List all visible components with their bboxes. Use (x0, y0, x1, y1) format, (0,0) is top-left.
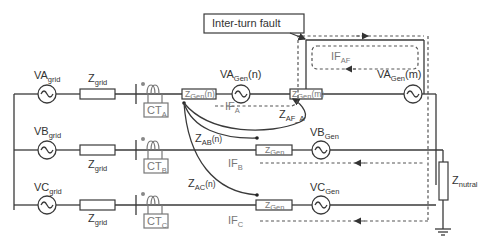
blurred-caption-line (12, 238, 474, 248)
gen-source-a-m (404, 85, 422, 103)
label-z-neutral: Znutral (452, 174, 478, 189)
grid-impedance-a (80, 89, 115, 99)
label-z-af-a: ZAF_A (279, 108, 305, 123)
ac-wave-icon (315, 147, 327, 153)
label-vc-gen: VCGen (310, 181, 339, 196)
label-vb-gen: VBGen (310, 126, 339, 141)
grid-source-b (38, 141, 56, 159)
label-z-ac: ZAC(n) (188, 177, 216, 192)
fault-current-af-loop (312, 46, 418, 69)
label-if-af: IFAF (331, 50, 351, 65)
label-z-grid-c: Zgrid (88, 212, 107, 227)
mutual-impedance-ac-arc (184, 103, 257, 195)
ac-wave-icon (315, 202, 327, 208)
ground-icon (435, 229, 451, 235)
label-vc-grid: VCgrid (34, 181, 62, 196)
label-z-grid-b: Zgrid (88, 158, 107, 173)
ac-wave-icon (407, 91, 419, 97)
grid-source-c (38, 196, 56, 214)
label-vb-grid: VBgrid (34, 125, 61, 140)
ac-wave-icon (41, 202, 53, 208)
label-if-b: IFB (228, 157, 243, 172)
neutral-impedance (439, 162, 448, 229)
ac-wave-icon (235, 91, 247, 97)
inter-turn-fault-circuit-diagram: Inter-turn fault VAgrid VBgrid VCgrid Zg… (0, 0, 486, 252)
label-if-c: IFC (228, 214, 244, 229)
label-va-gen-m: VAGen(m) (377, 68, 422, 83)
ac-wave-icon (41, 147, 53, 153)
svg-text:Inter-turn fault: Inter-turn fault (212, 17, 280, 29)
inter-turn-fault-callout: Inter-turn fault (204, 14, 305, 39)
label-va-gen-n: VAGen(n) (220, 68, 262, 83)
label-z-grid-a: Zgrid (88, 72, 107, 87)
label-z-ab: ZAB(n) (195, 132, 222, 147)
grid-source-a (38, 85, 56, 103)
grid-impedance-b (80, 145, 115, 155)
gen-source-b (312, 141, 330, 159)
grid-impedance-c (80, 200, 115, 210)
gen-source-c (312, 196, 330, 214)
ac-wave-icon (41, 91, 53, 97)
label-va-grid: VAgrid (34, 69, 60, 84)
